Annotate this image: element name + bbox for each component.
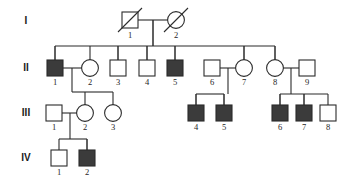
male-square-affected[interactable] [216, 105, 232, 121]
male-square-affected[interactable] [296, 105, 312, 121]
male-square-affected[interactable] [47, 60, 63, 76]
generation-label-i: I [25, 15, 28, 26]
female-circle-open[interactable] [82, 60, 99, 77]
individual-id-label: 7 [302, 122, 306, 132]
individual-id-label: 1 [53, 77, 57, 87]
connector-lines [55, 20, 328, 151]
pedigree-chart: I II III IV [0, 0, 346, 194]
individual-ii-2[interactable]: 2 [82, 60, 99, 87]
individual-id-label: 5 [173, 77, 177, 87]
male-square-open[interactable] [139, 60, 155, 76]
male-square-open[interactable] [299, 60, 315, 76]
individual-iii-2[interactable]: 2 [77, 105, 94, 132]
individual-id-label: 9 [305, 77, 309, 87]
individual-i-2[interactable]: 2 [164, 8, 188, 40]
individual-i-1[interactable]: 1 [118, 8, 142, 40]
male-square-open[interactable] [51, 150, 67, 166]
generation-label-group: I II III IV [21, 15, 31, 163]
individual-id-label: 1 [52, 122, 56, 132]
individual-ii-1[interactable]: 1 [47, 60, 63, 87]
individual-iii-6[interactable]: 6 [272, 105, 288, 132]
generation-label-iv: IV [21, 152, 31, 163]
individual-iii-1[interactable]: 1 [46, 105, 62, 132]
male-square-affected[interactable] [272, 105, 288, 121]
individual-id-label: 6 [210, 77, 214, 87]
pedigree-canvas: I II III IV [0, 0, 346, 194]
generation-label-ii: II [23, 62, 29, 73]
male-square-affected[interactable] [79, 150, 95, 166]
individual-id-label: 6 [278, 122, 282, 132]
individual-id-label: 2 [88, 77, 92, 87]
female-circle-open[interactable] [267, 60, 284, 77]
individual-iii-8[interactable]: 8 [320, 105, 336, 132]
female-circle-open[interactable] [105, 105, 122, 122]
individual-ii-7[interactable]: 7 [236, 60, 253, 87]
male-square-open[interactable] [320, 105, 336, 121]
female-circle-open[interactable] [236, 60, 253, 77]
individual-id-label: 8 [326, 122, 330, 132]
generation-label-iii: III [22, 107, 31, 118]
individual-ii-6[interactable]: 6 [204, 60, 220, 87]
individual-ii-5[interactable]: 5 [167, 60, 183, 87]
male-square-open[interactable] [110, 60, 126, 76]
individual-id-label: 1 [128, 30, 132, 40]
individual-iii-4[interactable]: 4 [188, 105, 204, 132]
individual-id-label: 4 [194, 122, 199, 132]
individual-id-label: 7 [242, 77, 246, 87]
individual-iv-2[interactable]: 2 [79, 150, 95, 177]
individual-id-label: 2 [83, 122, 87, 132]
individual-iii-3[interactable]: 3 [105, 105, 122, 132]
individual-ii-9[interactable]: 9 [299, 60, 315, 87]
individual-iii-7[interactable]: 7 [296, 105, 312, 132]
male-square-affected[interactable] [188, 105, 204, 121]
individual-ii-3[interactable]: 3 [110, 60, 126, 87]
individual-iii-5[interactable]: 5 [216, 105, 232, 132]
female-circle-open[interactable] [77, 105, 94, 122]
individual-id-label: 1 [57, 167, 61, 177]
male-square-affected[interactable] [167, 60, 183, 76]
individual-id-label: 2 [174, 30, 178, 40]
male-square-open[interactable] [46, 105, 62, 121]
individual-ii-8[interactable]: 8 [267, 60, 284, 87]
individual-id-label: 3 [111, 122, 115, 132]
individual-id-label: 8 [273, 77, 277, 87]
male-square-open[interactable] [204, 60, 220, 76]
individual-ii-4[interactable]: 4 [139, 60, 155, 87]
individual-id-label: 4 [145, 77, 150, 87]
individual-iv-1[interactable]: 1 [51, 150, 67, 177]
individual-id-label: 3 [116, 77, 120, 87]
individual-id-label: 2 [85, 167, 89, 177]
individual-id-label: 5 [222, 122, 226, 132]
